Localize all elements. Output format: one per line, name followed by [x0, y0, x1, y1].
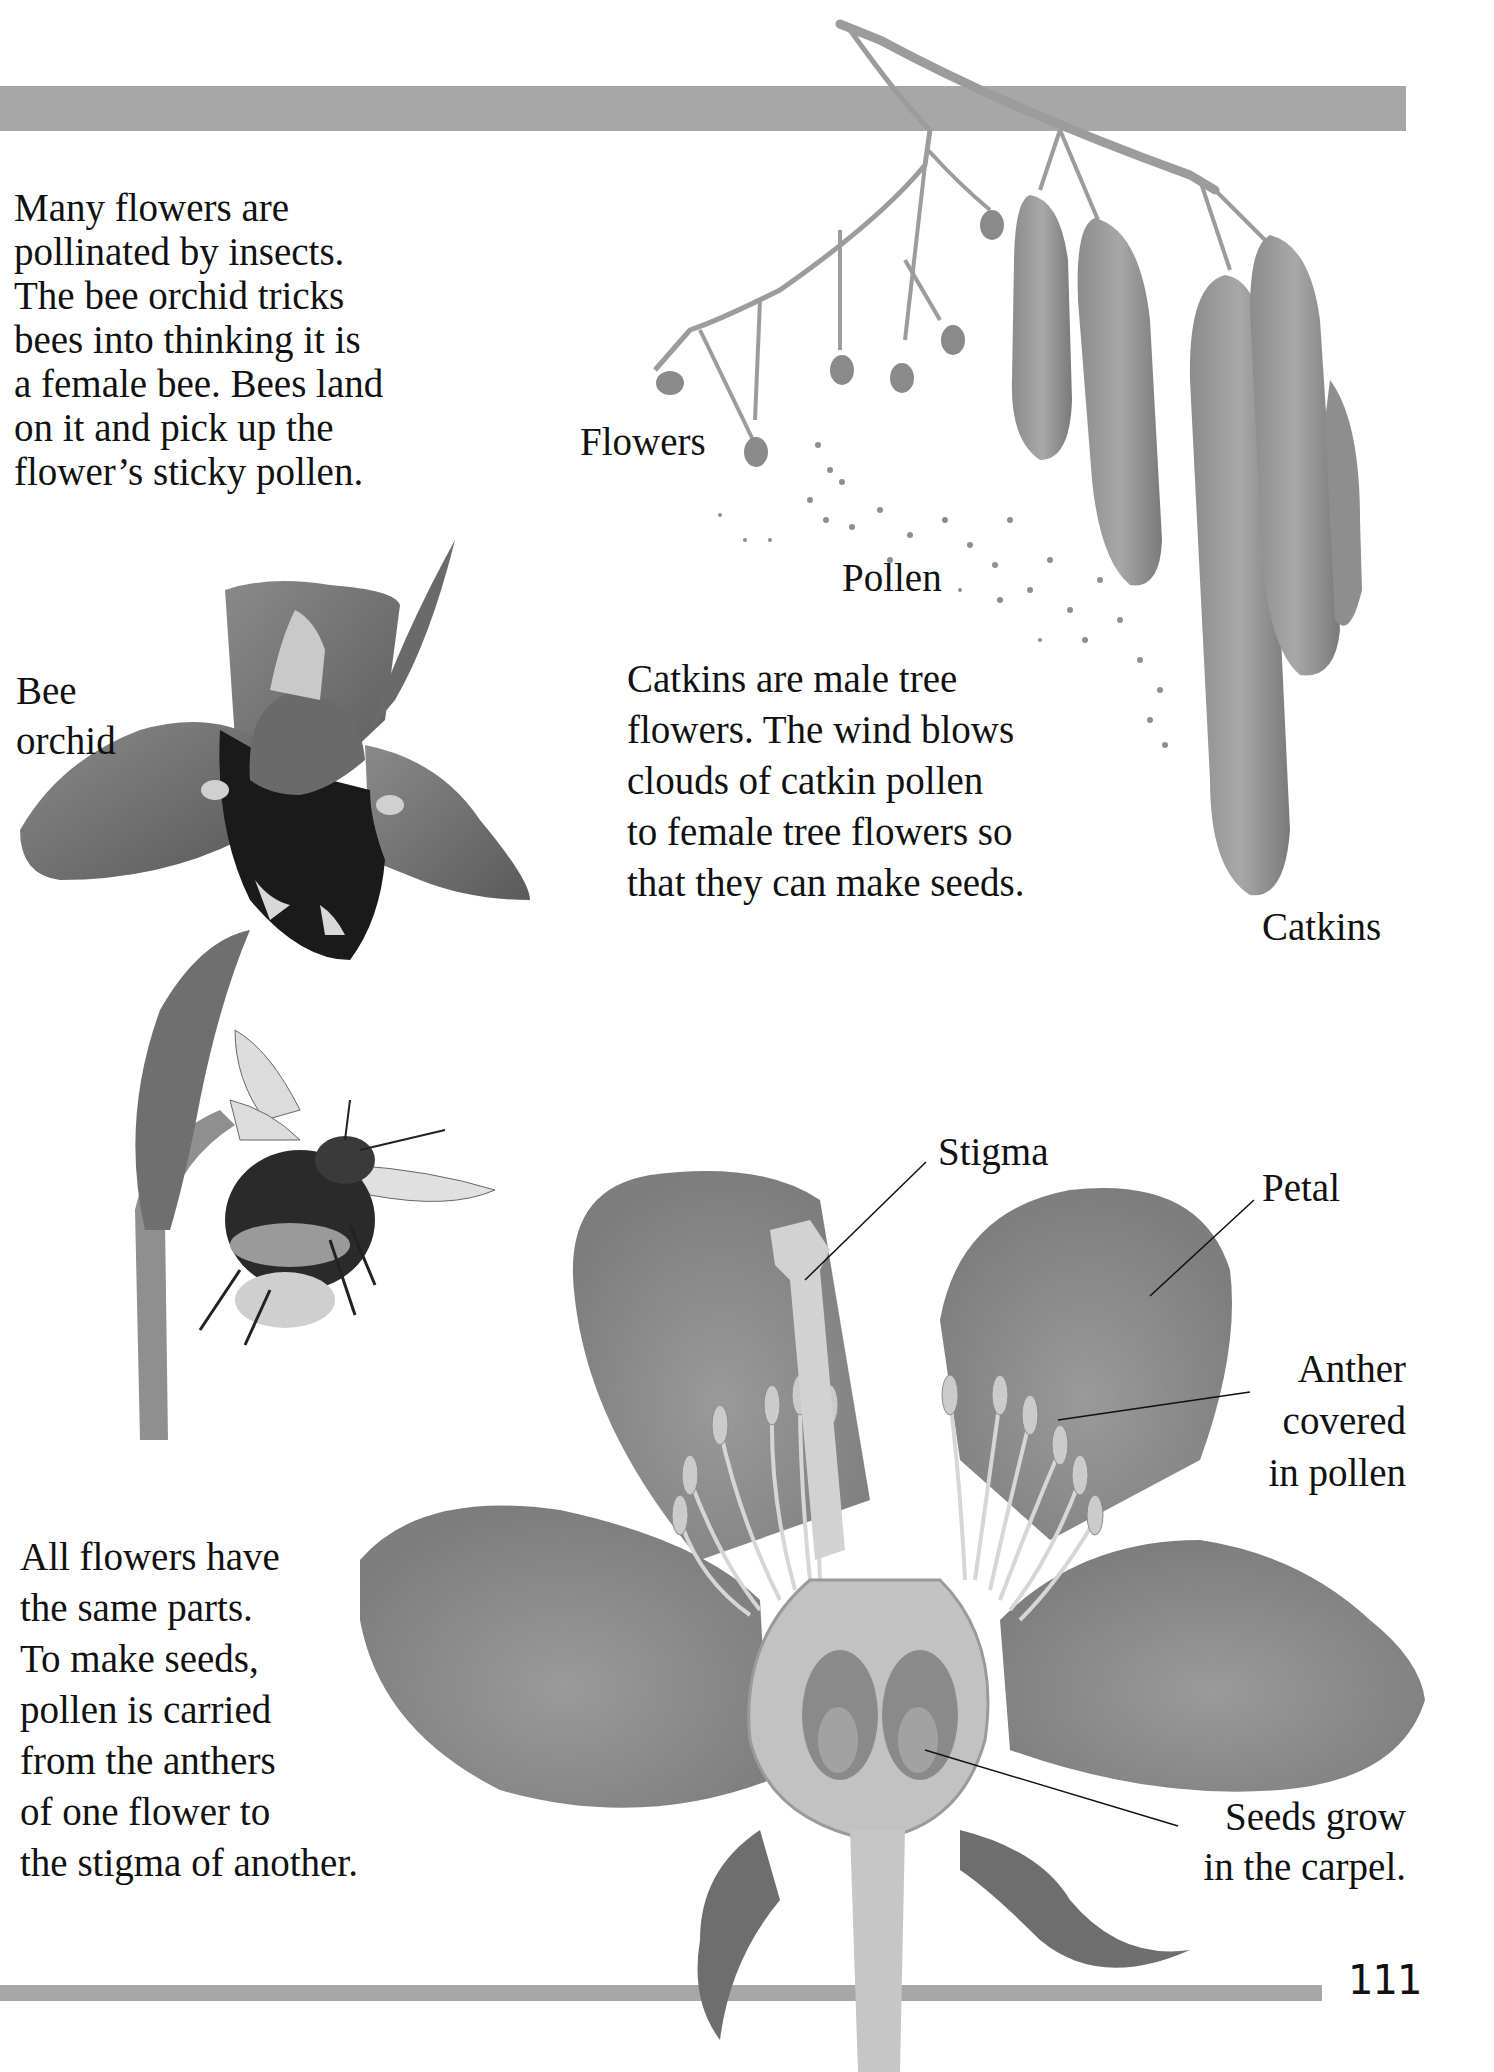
catkins-paragraph: Catkins are male tree flowers. The wind … [627, 653, 1187, 908]
flower-parts-paragraph: All flowers have the same parts. To make… [20, 1531, 460, 1888]
stigma-label: Stigma [938, 1130, 1049, 1174]
bee-orchid-label: Bee orchid [16, 666, 116, 766]
catkins-label: Catkins [1262, 905, 1381, 949]
seeds-label: Seeds grow in the carpel. [1204, 1792, 1406, 1892]
flowers-label: Flowers [580, 420, 706, 464]
bumblebee-illustration [200, 1030, 495, 1345]
flower-cross-section-illustration [360, 1162, 1425, 2072]
pollination-paragraph: Many flowers are pollinated by insects. … [14, 186, 494, 494]
anther-label: Anther covered in pollen [1268, 1343, 1406, 1499]
pollen-label: Pollen [842, 556, 942, 600]
petal-label: Petal [1262, 1166, 1340, 1210]
page-number: 111 [1348, 1958, 1421, 2002]
